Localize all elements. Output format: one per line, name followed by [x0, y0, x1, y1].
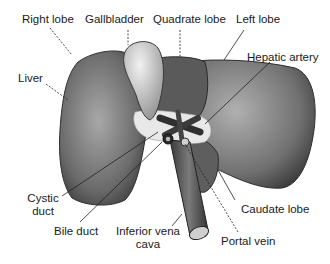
label-right-lobe: Right lobe: [22, 13, 74, 26]
label-ivc-line2: cava: [110, 238, 186, 251]
label-cystic-duct: Cystic duct: [24, 192, 62, 218]
label-ivc-line1: Inferior vena: [110, 225, 186, 238]
label-bile-duct: Bile duct: [54, 225, 98, 238]
label-liver: Liver: [18, 72, 43, 85]
label-portal-vein: Portal vein: [221, 235, 275, 248]
label-hepatic-artery: Hepatic artery: [247, 51, 319, 64]
label-quadrate-lobe: Quadrate lobe: [153, 13, 226, 26]
label-cystic-duct-line2: duct: [24, 205, 62, 218]
label-gallbladder: Gallbladder: [85, 13, 144, 26]
label-inferior-vena-cava: Inferior vena cava: [110, 225, 186, 251]
label-caudate-lobe: Caudate lobe: [241, 203, 309, 216]
label-cystic-duct-line1: Cystic: [24, 192, 62, 205]
label-left-lobe: Left lobe: [236, 13, 280, 26]
